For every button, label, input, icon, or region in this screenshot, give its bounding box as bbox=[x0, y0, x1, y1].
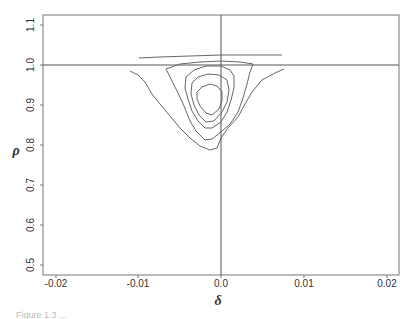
y-tick-label: 1.1 bbox=[25, 18, 36, 32]
x-tick-label: 0.01 bbox=[294, 278, 314, 289]
x-tick-label: 0.02 bbox=[377, 278, 397, 289]
y-tick-label: 0.8 bbox=[25, 138, 36, 152]
contour-level-5 bbox=[130, 69, 284, 150]
x-tick-label: 0.0 bbox=[214, 278, 228, 289]
contour-level-1 bbox=[197, 84, 222, 115]
contour-chart: 1.1 1.0 0.9 0.8 0.7 0.6 0.5 -0.02 -0.01 … bbox=[0, 0, 412, 319]
y-tick-label: 0.9 bbox=[25, 98, 36, 112]
x-axis-title: δ bbox=[214, 293, 221, 308]
y-tick-label: 0.7 bbox=[25, 178, 36, 192]
x-tick-label: -0.01 bbox=[127, 278, 150, 289]
y-tick-labels: 1.1 1.0 0.9 0.8 0.7 0.6 0.5 bbox=[25, 18, 36, 272]
x-tick-labels: -0.02 -0.01 0.0 0.01 0.02 bbox=[45, 278, 398, 289]
y-axis-title: ρ bbox=[11, 143, 19, 158]
y-tick-label: 0.5 bbox=[25, 258, 36, 272]
y-tick-label: 0.6 bbox=[25, 218, 36, 232]
contour-lines bbox=[130, 55, 284, 150]
figure-caption: Figure 1.3 ... bbox=[16, 310, 67, 319]
y-tick-label: 1.0 bbox=[25, 58, 36, 72]
contour-level-6 bbox=[139, 55, 282, 58]
x-tick-label: -0.02 bbox=[45, 278, 68, 289]
contour-level-3 bbox=[185, 66, 234, 128]
